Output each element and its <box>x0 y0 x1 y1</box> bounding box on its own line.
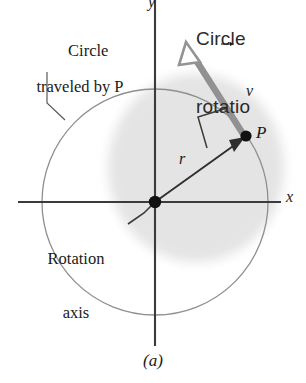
clipped-header-line1: Circle <box>196 29 250 50</box>
clipped-header-text: Circle rotatio <box>196 0 250 158</box>
clipped-header-line2: rotatio <box>196 97 250 118</box>
figure-caption: (a) <box>0 352 306 370</box>
rotational-motion-figure: Circle traveled by P Rotation axis x y P… <box>0 0 306 383</box>
point-p-label: P <box>256 124 266 142</box>
rotation-axis-label-line2: axis <box>20 304 132 322</box>
x-axis-label: x <box>286 188 293 205</box>
rotation-axis-label-line1: Rotation <box>20 250 132 268</box>
circle-traveled-label-line2: traveled by P <box>18 78 142 96</box>
rotation-axis-label: Rotation axis <box>20 214 132 358</box>
y-axis-label: y <box>148 0 155 10</box>
circle-traveled-label-line1: Circle <box>68 41 108 60</box>
circle-traveled-label: Circle traveled by P <box>18 24 142 132</box>
origin-dot <box>149 196 161 208</box>
radius-label: r <box>179 150 185 167</box>
